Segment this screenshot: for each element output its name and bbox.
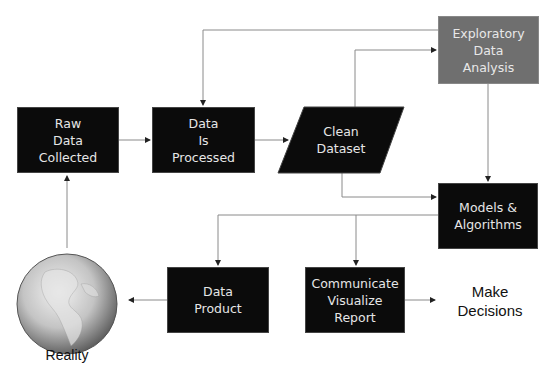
- data-science-process-diagram: Raw Data Collected Data Is Processed Cle…: [0, 0, 555, 375]
- node-models-algorithms: Models & Algorithms: [438, 183, 538, 249]
- node-label-line: Report: [334, 309, 375, 326]
- node-label-line: Algorithms: [454, 216, 522, 233]
- node-communicate-visualize-report: Communicate Visualize Report: [305, 267, 405, 333]
- edge-eda-to-processed: [203, 30, 438, 105]
- node-label-line: Is: [198, 132, 208, 149]
- node-label-line: Product: [194, 300, 241, 317]
- node-label-line: Data: [189, 115, 219, 132]
- node-exploratory-data-analysis: Exploratory Data Analysis: [438, 16, 539, 84]
- node-label-line: Decisions: [445, 301, 535, 320]
- node-label-line: Raw: [55, 115, 81, 132]
- node-data-is-processed: Data Is Processed: [152, 107, 255, 173]
- node-label-line: Communicate: [311, 275, 398, 292]
- node-label-line: Data: [53, 132, 83, 149]
- node-label-line: Visualize: [327, 292, 382, 309]
- node-label-line: Exploratory: [452, 25, 524, 42]
- node-label-line: Data: [474, 42, 504, 59]
- node-label-line: Models &: [459, 199, 517, 216]
- node-raw-data-collected: Raw Data Collected: [17, 107, 119, 173]
- node-label-line: Make: [445, 282, 535, 301]
- node-data-product: Data Product: [167, 267, 269, 333]
- node-clean-dataset: Clean Dataset: [290, 107, 392, 173]
- node-label-line: Processed: [172, 149, 235, 166]
- edge-clean-to-eda: [355, 50, 436, 107]
- reality-label: Reality: [25, 347, 109, 363]
- node-label-line: Dataset: [317, 140, 366, 157]
- node-label-line: Analysis: [463, 59, 515, 76]
- node-label-line: Clean: [323, 123, 358, 140]
- node-label-line: Collected: [39, 149, 97, 166]
- node-make-decisions: Make Decisions: [445, 282, 535, 320]
- node-label-line: Data: [203, 283, 233, 300]
- edge-models-to-product: [218, 215, 438, 265]
- edge-clean-to-models: [342, 173, 436, 197]
- globe-icon: [15, 252, 125, 362]
